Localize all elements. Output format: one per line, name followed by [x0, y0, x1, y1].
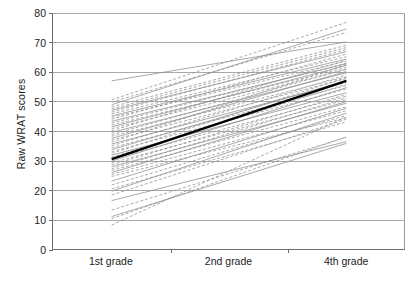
y-tick-label: 20 — [16, 186, 46, 196]
y-tick-label: 0 — [16, 245, 46, 255]
x-tick-label: 1st grade — [89, 255, 133, 267]
subject-line — [112, 81, 347, 150]
series-lines — [53, 13, 405, 249]
y-tick-label: 70 — [16, 38, 46, 48]
y-tick-label: 30 — [16, 156, 46, 166]
y-tick-mark — [49, 250, 53, 251]
y-tick-label: 50 — [16, 97, 46, 107]
y-tick-label: 40 — [16, 127, 46, 137]
y-axis-tick-labels: 01020304050607080 — [0, 13, 46, 250]
x-tick-label: 2nd grade — [205, 255, 252, 267]
subject-line — [112, 122, 347, 189]
x-tick-label: 4th grade — [324, 255, 368, 267]
y-tick-label: 80 — [16, 8, 46, 18]
subject-line — [112, 71, 347, 138]
x-axis-tick-labels: 1st grade2nd grade4th grade — [52, 255, 405, 271]
subject-line — [112, 102, 347, 173]
subject-line — [112, 137, 347, 219]
x-tick-mark — [288, 249, 289, 253]
plot-area — [52, 13, 405, 250]
caption-strip — [0, 280, 417, 292]
x-tick-mark — [171, 249, 172, 253]
figure-container: Raw WRAT scores 01020304050607080 1st gr… — [0, 0, 417, 292]
subject-line — [112, 117, 347, 225]
y-tick-label: 10 — [16, 215, 46, 225]
y-tick-label: 60 — [16, 67, 46, 77]
